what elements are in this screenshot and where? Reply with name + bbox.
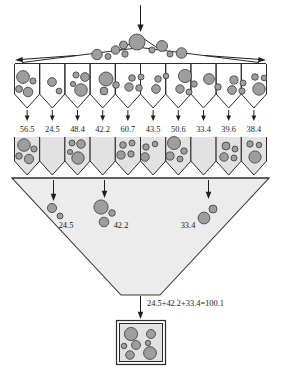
spreader-plate [22, 48, 259, 63]
top-feed-arrow-icon [137, 5, 143, 32]
funnel-label-3: 33.4 [181, 221, 196, 230]
collecting-funnel [12, 178, 269, 295]
total-equation-label: 24.5+42.2+33.4=100.1 [147, 299, 224, 308]
weigh-hopper-discharge-arrowhead-1 [25, 116, 30, 122]
hopper-weight-label-8: 33.4 [196, 125, 211, 134]
hopper-weight-label-7: 50.6 [171, 125, 186, 134]
weigh-hopper-discharge-arrowhead-3 [75, 116, 80, 122]
weigh-hopper-discharge-arrowhead-8 [201, 116, 206, 122]
weigh-hopper-discharge-arrowhead-2 [50, 116, 55, 122]
memory-hopper-2 [40, 137, 65, 175]
output-package [117, 321, 166, 365]
combinatorial-weigher-diagram: 56.524.548.442.260.743.550.633.439.638.4 [0, 0, 281, 371]
funnel-label-2: 42.2 [114, 221, 129, 230]
hopper-weight-labels: 56.524.548.442.260.743.550.633.439.638.4 [20, 125, 262, 134]
feed-particles [92, 34, 187, 60]
weigh-hopper-discharge-arrowhead-10 [252, 116, 257, 122]
weigh-hopper-discharge-arrowhead-9 [226, 116, 231, 122]
outlet-arrow-icon [138, 296, 144, 319]
hopper-weight-label-3: 48.4 [70, 125, 85, 134]
hopper-discharge-arrows [25, 110, 257, 121]
hopper-weight-label-1: 56.5 [20, 125, 35, 134]
weigh-hopper-discharge-arrowhead-5 [126, 116, 131, 122]
hopper-weight-label-4: 42.2 [95, 125, 110, 134]
memory-hopper-4 [90, 137, 115, 175]
weigh-hopper-4 [90, 64, 115, 108]
weigh-hopper-contents-upper [16, 69, 267, 96]
weigh-hopper-discharge-arrowhead-4 [100, 116, 105, 122]
spread-right-arrow-icon [205, 56, 266, 63]
weigh-hopper-discharge-arrowhead-6 [151, 116, 156, 122]
hopper-weight-label-10: 38.4 [247, 125, 262, 134]
hopper-weight-label-9: 39.6 [221, 125, 236, 134]
weigh-hopper-discharge-arrowhead-7 [176, 116, 181, 122]
hopper-weight-label-6: 43.5 [146, 125, 161, 134]
hopper-weight-label-5: 60.7 [121, 125, 136, 134]
memory-hopper-8 [191, 137, 216, 175]
hopper-weight-label-2: 24.5 [45, 125, 60, 134]
spread-left-arrow-icon [15, 56, 76, 63]
funnel-label-1: 24.5 [59, 221, 74, 230]
